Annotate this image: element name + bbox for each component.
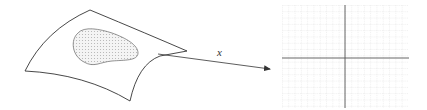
map-arrow <box>158 54 270 69</box>
surface <box>25 10 187 101</box>
map-label: x <box>216 46 222 58</box>
coordinate-plane <box>282 5 409 108</box>
diagram-canvas: x <box>0 0 427 110</box>
